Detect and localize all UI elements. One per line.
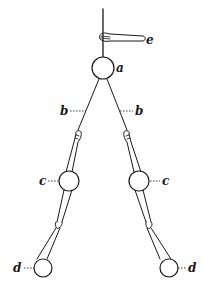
label-c-right: c	[162, 174, 170, 188]
string-b-left	[78, 79, 99, 130]
ball-a	[92, 57, 114, 79]
ball-d-left	[34, 259, 52, 277]
ball-c-left	[59, 171, 79, 191]
lower-arm-left	[37, 190, 72, 259]
label-b-right: b	[135, 104, 143, 118]
label-c-left: c	[39, 174, 47, 188]
label-d-right: d	[188, 261, 197, 275]
upper-arm-left	[66, 131, 81, 172]
label-a: a	[116, 61, 124, 75]
label-d-left: d	[13, 261, 22, 275]
lower-arm-right	[135, 190, 171, 259]
pendulum-chain-diagram: e a b b c c d d	[0, 0, 203, 296]
label-e: e	[146, 33, 154, 47]
holding-hand-e	[100, 33, 145, 41]
ball-c-right	[129, 171, 149, 191]
ball-d-right	[160, 259, 178, 277]
label-b-left: b	[60, 104, 68, 118]
upper-arm-right	[124, 131, 141, 172]
string-b-right	[107, 79, 127, 130]
